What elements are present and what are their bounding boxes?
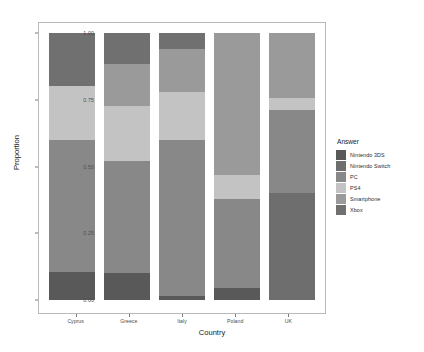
bar-segment[interactable] [104,33,150,64]
legend-item[interactable]: Nintendo Switch [336,160,390,171]
legend-swatch-icon [336,183,346,193]
legend-title: Answer [337,138,390,145]
x-tick-mark [76,314,77,317]
legend-item-label: Smartphone [350,196,380,202]
legend-item-label: PS4 [350,185,361,191]
legend-swatch-icon [336,194,346,204]
x-tick-label-italy: Italy [177,318,187,324]
legend-swatch-icon [336,172,346,182]
bar-segment[interactable] [49,140,95,272]
x-axis-title: Country [0,328,424,337]
bar-segment[interactable] [104,64,150,107]
y-tick-mark [35,166,38,167]
y-axis-title: Proportion [12,113,21,193]
y-tick-mark [35,300,38,301]
bar-segment[interactable] [269,110,315,193]
y-tick-label: 0.00 [83,297,94,303]
bar-segment[interactable] [269,33,315,98]
plot-area [39,23,325,313]
bar-segment[interactable] [49,272,95,300]
y-tick-mark [35,33,38,34]
legend-item-label: PC [350,174,358,180]
bar-segment[interactable] [104,161,150,273]
bar-segment[interactable] [214,288,260,300]
bar-segment[interactable] [104,106,150,161]
x-tick-label-poland: Poland [227,318,243,324]
bar-uk[interactable] [269,33,315,300]
x-tick-mark [235,314,236,317]
bar-segment[interactable] [214,175,260,199]
bar-greece[interactable] [104,33,150,300]
bar-segment[interactable] [49,33,95,86]
legend-swatch-icon [336,150,346,160]
bar-segment[interactable] [49,86,95,139]
bar-segment[interactable] [269,98,315,110]
x-tick-mark [288,314,289,317]
chart-canvas: 0.000.250.500.751.00 CyprusGreeceItalyPo… [0,0,424,352]
y-tick-label: 0.25 [83,230,94,236]
legend-swatch-icon [336,205,346,215]
bar-segment[interactable] [159,296,205,300]
y-tick-label: 0.75 [83,97,94,103]
bar-segment[interactable] [159,140,205,296]
bar-poland[interactable] [214,33,260,300]
y-tick-mark [35,99,38,100]
legend: Answer Nintendo 3DSNintendo SwitchPCPS4S… [336,138,390,215]
legend-item-label: Nintendo 3DS [350,152,385,158]
legend-swatch-icon [336,161,346,171]
x-tick-label-cyprus: Cyprus [67,318,83,324]
bar-segment[interactable] [214,33,260,175]
legend-item[interactable]: PS4 [336,182,390,193]
y-tick-label: 1.00 [83,30,94,36]
bar-segment[interactable] [159,33,205,49]
legend-item[interactable]: PC [336,171,390,182]
bar-segment[interactable] [159,92,205,140]
bar-segment[interactable] [104,273,150,300]
bar-segment[interactable] [159,49,205,92]
bar-segment[interactable] [269,193,315,300]
bar-italy[interactable] [159,33,205,300]
bar-segment[interactable] [214,199,260,288]
y-tick-mark [35,233,38,234]
legend-item[interactable]: Smartphone [336,193,390,204]
x-tick-label-uk: UK [285,318,292,324]
x-tick-mark [182,314,183,317]
legend-items: Nintendo 3DSNintendo SwitchPCPS4Smartpho… [336,149,390,215]
legend-item-label: Xbox [350,207,363,213]
legend-item-label: Nintendo Switch [350,163,390,169]
x-tick-label-greece: Greece [120,318,137,324]
x-tick-mark [129,314,130,317]
y-tick-label: 0.50 [83,164,94,170]
legend-item[interactable]: Xbox [336,204,390,215]
legend-item[interactable]: Nintendo 3DS [336,149,390,160]
